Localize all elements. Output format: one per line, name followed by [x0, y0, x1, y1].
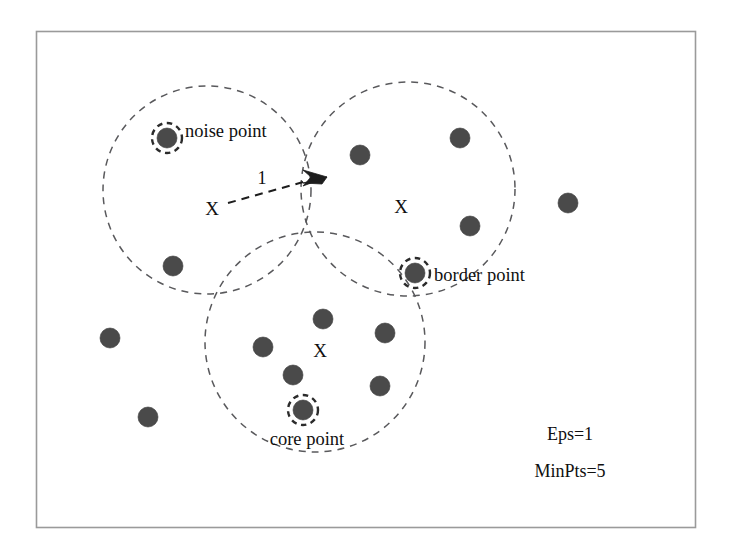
data-point [460, 216, 480, 236]
data-point [370, 376, 390, 396]
data-point [313, 309, 333, 329]
dbscan-diagram-canvas: X X X 1 noise point border point core po… [0, 0, 733, 560]
core-point-label: core point [270, 429, 345, 449]
center-marker-bottom: X [313, 340, 327, 361]
data-point [138, 407, 158, 427]
data-point [450, 128, 470, 148]
noise-point-dot [157, 128, 177, 148]
noise-point-label: noise point [185, 121, 268, 141]
border-point-label: border point [434, 265, 526, 285]
center-marker-right: X [394, 196, 408, 217]
data-point [350, 145, 370, 165]
figure-frame [37, 32, 696, 528]
data-point [375, 323, 395, 343]
eps-parameter-label: Eps=1 [547, 424, 593, 444]
dbscan-figure: X X X 1 noise point border point core po… [0, 0, 733, 560]
data-point [558, 193, 578, 213]
core-point-dot [293, 400, 313, 420]
data-point [253, 337, 273, 357]
data-point [283, 365, 303, 385]
border-point-dot [405, 263, 425, 283]
data-point [100, 328, 120, 348]
data-point [163, 256, 183, 276]
center-marker-left: X [205, 198, 219, 219]
eps-radius-value-label: 1 [258, 168, 267, 188]
minpts-parameter-label: MinPts=5 [534, 461, 605, 481]
